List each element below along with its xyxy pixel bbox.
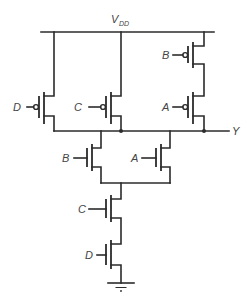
svg-text:DD: DD [119,20,129,27]
nmos-transistor-a: A [130,131,170,183]
ground-icon [108,283,134,292]
pmos-c-inversion-bubble [101,105,106,110]
pmos-b-gate-label: B [162,49,169,61]
pmos-transistor-d: D [13,32,54,131]
pmos-d-drain-wire [44,116,54,131]
output-label: Y [232,125,240,137]
nmos-a-source-wire [161,167,170,183]
nmos-d-source-wire [111,265,121,283]
pmos-transistor-a: A [161,92,204,131]
nmos-c-gate-label: C [78,203,86,215]
pmos-c-drain-wire [111,116,121,131]
nmos-d-gate-label: D [85,249,93,261]
nmos-transistor-b: B [62,131,101,183]
pmos-c-gate-label: C [74,101,82,113]
nmos-c-to-d-wire [111,218,121,244]
pmos-transistor-c: C [74,32,121,131]
nmos-c-drain-wire [111,183,121,199]
pmos-a-drain-wire [193,116,204,131]
junction-dot [119,129,123,133]
pmos-a-gate-label: A [161,101,169,113]
nmos-b-drain-wire [92,131,101,148]
pmos-b-to-a-wire [193,64,204,96]
nmos-transistor-d: D [85,240,121,283]
nmos-a-gate-label: A [130,152,138,164]
pmos-c-source-wire [111,32,121,96]
pmos-d-source-wire [44,32,54,96]
pmos-d-inversion-bubble [34,105,39,110]
cmos-schematic: V DD D C B A [0,0,249,306]
pmos-transistor-b: B [162,32,204,96]
vdd-label: V DD [111,13,129,27]
nmos-b-gate-label: B [62,152,69,164]
junction-dot [202,129,206,133]
pmos-d-gate-label: D [13,101,21,113]
nmos-transistor-c: C [78,183,121,244]
nmos-a-drain-wire [161,131,170,148]
pmos-b-source-wire [193,32,204,46]
nmos-b-source-wire [92,167,101,183]
